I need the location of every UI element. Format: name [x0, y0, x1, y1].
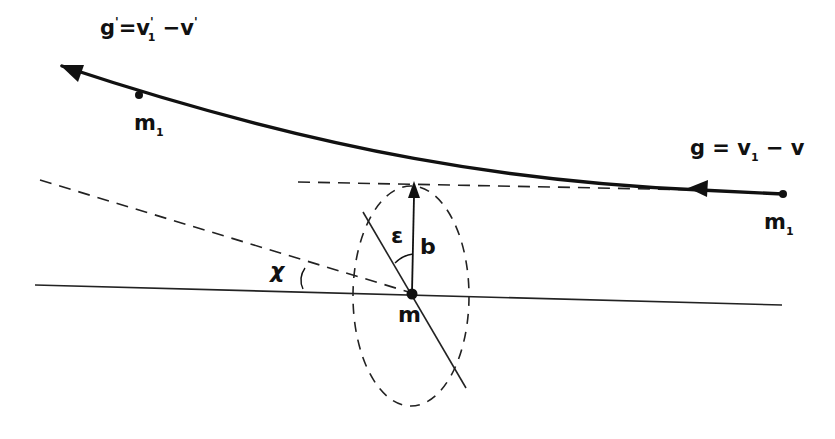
outgoing-asymptote-dashed: [40, 180, 412, 293]
subscript-1: 1: [148, 31, 156, 44]
subscript-1: 1: [751, 151, 759, 164]
minus-v: −v: [155, 16, 194, 40]
prime-mark: ': [194, 15, 198, 29]
particle-m1-start-dot: [779, 190, 787, 198]
relative-velocity-before-label: g = v1 − v: [690, 138, 805, 159]
diagram-canvas: [0, 0, 835, 439]
g-after-symbol: g: [100, 16, 115, 40]
g-equals-v: g = v: [690, 136, 751, 160]
particle-m1-end-dot: [135, 91, 143, 99]
trajectory-end-arrowhead-icon: [60, 65, 84, 82]
impact-parameter-label: b: [420, 236, 436, 258]
equals-v1: =v: [119, 16, 150, 40]
m-symbol: m: [134, 111, 156, 135]
m-symbol: m: [764, 210, 786, 234]
particle-m-center-dot: [407, 289, 418, 300]
epsilon-angle-label: ε: [391, 225, 403, 247]
particle-m1-end-label: m1: [134, 113, 164, 134]
collision-diagram: g'=v'1 −v' g = v1 − v m1 m1 m ε b χ: [0, 0, 835, 439]
prime-mark: ': [150, 15, 154, 29]
subscript-1: 1: [156, 126, 164, 139]
chi-angle-label: χ: [270, 260, 284, 282]
chi-angle-arc: [301, 268, 305, 289]
prime-mark: ': [115, 15, 119, 29]
impact-parameter-line: [412, 196, 414, 293]
trajectory-curve: [62, 66, 783, 194]
particle-m-center-label: m: [398, 304, 421, 326]
apse-line: [363, 212, 466, 388]
epsilon-angle-arc: [395, 254, 413, 263]
relative-velocity-after-label: g'=v'1 −v': [100, 18, 198, 39]
minus-v: − v: [759, 136, 805, 160]
trajectory-mid-arrowhead-icon: [688, 180, 708, 197]
particle-m1-start-label: m1: [764, 212, 794, 233]
subscript-1: 1: [786, 225, 794, 238]
